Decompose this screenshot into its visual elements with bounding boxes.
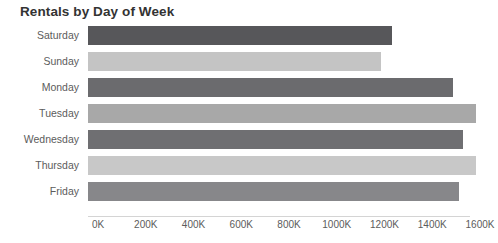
category-label-thursday: Thursday <box>0 156 79 175</box>
bar-wednesday[interactable] <box>88 130 463 149</box>
bar-tuesday[interactable] <box>88 104 476 123</box>
bar-sunday[interactable] <box>88 52 381 71</box>
x-tick-label: 1000K <box>322 219 351 230</box>
rentals-by-day-of-week-chart: Rentals by Day of Week SaturdaySundayMon… <box>0 0 498 243</box>
category-label-wednesday: Wednesday <box>0 130 79 149</box>
category-label-saturday: Saturday <box>0 26 79 45</box>
x-tick-label: 800K <box>277 219 300 230</box>
x-tick-label: 200K <box>134 219 157 230</box>
bar-row: Friday <box>0 182 498 208</box>
x-tick-label: 1600K <box>466 219 495 230</box>
category-label-friday: Friday <box>0 182 79 201</box>
bar-row: Sunday <box>0 52 498 78</box>
bar-friday[interactable] <box>88 182 459 201</box>
plot-area: SaturdaySundayMondayTuesdayWednesdayThur… <box>0 26 498 218</box>
chart-title: Rentals by Day of Week <box>20 4 174 19</box>
category-label-tuesday: Tuesday <box>0 104 79 123</box>
bar-monday[interactable] <box>88 78 453 97</box>
bar-saturday[interactable] <box>88 26 392 45</box>
bar-row: Monday <box>0 78 498 104</box>
category-label-sunday: Sunday <box>0 52 79 71</box>
x-tick-label: 1200K <box>370 219 399 230</box>
x-tick-label: 1400K <box>418 219 447 230</box>
bar-row: Tuesday <box>0 104 498 130</box>
category-label-monday: Monday <box>0 78 79 97</box>
bar-row: Saturday <box>0 26 498 52</box>
x-tick-label: 600K <box>230 219 253 230</box>
x-tick-label: 400K <box>182 219 205 230</box>
bar-thursday[interactable] <box>88 156 476 175</box>
x-axis-tick-labels: 0K200K400K600K800K1000K1200K1400K1600K <box>0 219 498 235</box>
x-axis-line <box>88 216 470 217</box>
bar-row: Wednesday <box>0 130 498 156</box>
x-tick-label: 0K <box>92 219 104 230</box>
bar-row: Thursday <box>0 156 498 182</box>
